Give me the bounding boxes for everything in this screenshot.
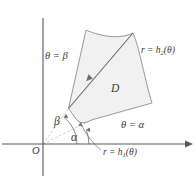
region-d-label: D — [111, 83, 119, 95]
x-axis-arrowhead — [185, 141, 193, 148]
angle-alpha-label: α — [71, 132, 77, 144]
polar-region-diagram: θ = β θ = α β α D O r = h2(θ) r = h1(θ) — [0, 0, 196, 178]
angle-beta-label: β — [54, 116, 60, 128]
h1-leader-line — [81, 122, 102, 150]
r-equals-h2-theta-label: r = h2(θ) — [141, 46, 175, 56]
r-equals-h2-suffix: (θ) — [164, 45, 175, 55]
theta-equals-alpha-label: θ = α — [121, 120, 144, 131]
theta-equals-beta-label: θ = β — [45, 51, 68, 62]
r-equals-h1-suffix: (θ) — [126, 147, 137, 157]
diagram-canvas — [0, 0, 196, 178]
r-equals-h2-prefix: r = h — [141, 45, 161, 55]
origin-label: O — [32, 146, 40, 157]
r-equals-h1-theta-label: r = h1(θ) — [103, 148, 137, 158]
region-d-fill — [69, 30, 153, 123]
r-equals-h1-prefix: r = h — [103, 147, 123, 157]
